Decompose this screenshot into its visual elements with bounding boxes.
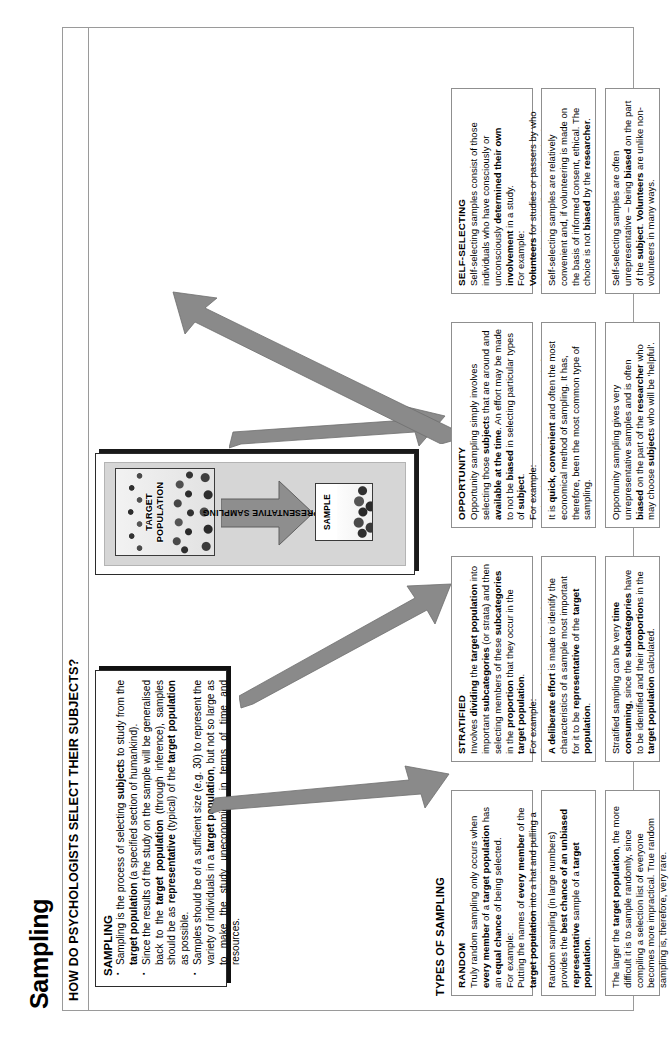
sampling-bullet-2: Since the results of the study on the sa… — [141, 680, 192, 965]
column-heading-opportunity: OPPORTUNITY — [456, 329, 468, 520]
sampling-bullet-list: Sampling is the process of selecting sub… — [115, 680, 243, 976]
weakness-cell-opportunity: Opportunity sampling gives very unrepres… — [605, 322, 660, 528]
column-heading-self-selecting: SELF-SELECTING — [456, 95, 468, 286]
weakness-text-self-selecting: Self-selecting samples are often unrepre… — [610, 95, 657, 286]
target-population-label: TARGET POPULATION — [144, 469, 167, 555]
strength-cell-self-selecting: Self-selecting samples are relatively co… — [541, 88, 596, 294]
column-heading-random: RANDOM — [456, 797, 468, 988]
description-cell-self-selecting: SELF-SELECTING Self-selecting samples co… — [451, 88, 533, 294]
description-cell-stratified: STRATIFIED Involves dividing the target … — [451, 556, 533, 762]
frame-body: SAMPLING Sampling is the process of sele… — [89, 28, 635, 1010]
description-text-random: Truly random sampling only occurs when e… — [468, 797, 550, 988]
sample-panel: SAMPLE — [315, 483, 373, 541]
weakness-text-opportunity: Opportunity sampling gives very unrepres… — [610, 329, 657, 520]
diagram-inner-panel: TARGET POPULATION REPRESENTATIVE SAMPLIN… — [104, 462, 406, 566]
sampling-bullet-1: Sampling is the process of selecting sub… — [115, 680, 140, 965]
target-population-panel: TARGET POPULATION — [115, 468, 215, 556]
section-heading: HOW DO PSYCHOLOGISTS SELECT THEIR SUBJEC… — [63, 28, 89, 1010]
strength-text-random: Random sampling (in large numbers) provi… — [546, 797, 593, 988]
description-cell-random: RANDOM Truly random sampling only occurs… — [451, 790, 533, 996]
strength-cell-random: Random sampling (in large numbers) provi… — [541, 790, 596, 996]
connector-arrow-opportunity — [229, 380, 454, 450]
representative-sampling-label: REPRESENTATIVE SAMPLING — [203, 508, 332, 518]
content-frame: HOW DO PSYCHOLOGISTS SELECT THEIR SUBJEC… — [62, 27, 634, 1011]
weakness-text-random: The larger the target population, the mo… — [610, 797, 669, 988]
page-title: Sampling — [26, 30, 52, 1009]
sampling-definition-panel: SAMPLING Sampling is the process of sele… — [95, 670, 227, 987]
strength-text-stratified: A deliberate effort is made to identify … — [546, 563, 593, 754]
strength-text-self-selecting: Self-selecting samples are relatively co… — [546, 95, 593, 286]
weakness-cell-stratified: Stratified sampling can be very time con… — [605, 556, 660, 762]
sample-label: SAMPLE — [322, 484, 332, 540]
row-label-types: TYPES OF SAMPLING — [434, 877, 446, 996]
representative-sampling-arrow: REPRESENTATIVE SAMPLING — [221, 475, 313, 551]
connector-arrow-stratified — [239, 560, 454, 710]
sampling-panel-heading: SAMPLING — [102, 680, 114, 976]
weakness-cell-random: The larger the target population, the mo… — [605, 790, 660, 996]
connector-arrow-random — [209, 744, 459, 814]
weakness-cell-self-selecting: Self-selecting samples are often unrepre… — [605, 88, 660, 294]
sampling-bullet-3: Samples should be of a sufficient size (… — [192, 680, 243, 965]
sampling-diagram: TARGET POPULATION REPRESENTATIVE SAMPLIN… — [95, 453, 415, 575]
weakness-text-stratified: Stratified sampling can be very time con… — [610, 563, 657, 754]
description-cell-opportunity: OPPORTUNITY Opportunity sampling simply … — [451, 322, 533, 528]
strength-cell-stratified: A deliberate effort is made to identify … — [541, 556, 596, 762]
column-heading-stratified: STRATIFIED — [456, 563, 468, 754]
strength-text-opportunity: It is quick, convenient and often the mo… — [546, 329, 593, 520]
strength-cell-opportunity: It is quick, convenient and often the mo… — [541, 322, 596, 528]
sample-crowd-illustration-icon — [337, 484, 372, 540]
connector-arrow-self-selecting — [159, 284, 459, 444]
